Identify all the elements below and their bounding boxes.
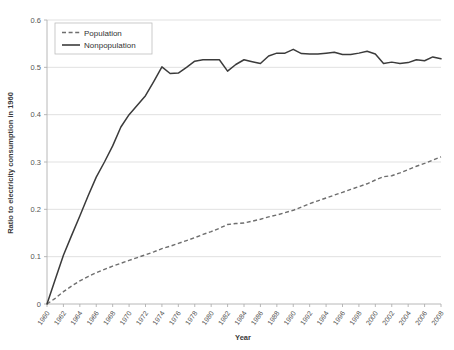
chart-legend: PopulationNonpopulation xyxy=(55,23,152,54)
y-tick-label-0.2: 0.2 xyxy=(31,205,41,214)
line-chart: 00.10.20.30.40.50.6 19601962196419661968… xyxy=(0,0,454,350)
y-tick-label-0.3: 0.3 xyxy=(31,158,41,167)
y-tick-label-0.4: 0.4 xyxy=(31,110,41,119)
y-tick-label-0.5: 0.5 xyxy=(31,63,41,72)
y-tick-label-0: 0 xyxy=(37,300,41,309)
legend-label-nonpopulation: Nonpopulation xyxy=(84,41,136,50)
y-tick-label-0.1: 0.1 xyxy=(31,252,41,261)
legend-label-population: Population xyxy=(84,29,122,38)
y-tick-label-0.6: 0.6 xyxy=(31,16,41,25)
x-axis-title: Year xyxy=(235,333,251,342)
chart-container: 00.10.20.30.40.50.6 19601962196419661968… xyxy=(0,0,454,350)
y-axis-title: Ratio to electricity consumption in 1960 xyxy=(6,92,15,234)
